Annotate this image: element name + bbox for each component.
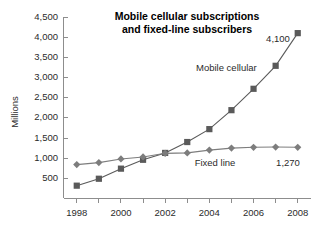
data-point-marker-square	[74, 183, 80, 189]
chart-canvas: Mobile cellular subscriptions and fixed-…	[0, 0, 326, 237]
y-axis-tick-label: 1,500	[34, 132, 58, 143]
data-point-marker-square	[206, 126, 212, 132]
y-axis-ticks: 5001,0001,5002,0002,5003,0003,5004,0004,…	[34, 11, 68, 183]
data-point-marker-square	[273, 63, 279, 69]
y-axis-tick-label: 500	[42, 172, 58, 183]
data-point-marker-square	[96, 176, 102, 182]
chart-title-line-2: and fixed-line subscribers	[122, 23, 252, 35]
y-axis-title: Millions	[9, 96, 20, 128]
y-axis: 5001,0001,5002,0002,5003,0003,5004,0004,…	[9, 11, 68, 198]
y-axis-tick-label: 2,500	[34, 91, 58, 102]
y-axis-tick-label: 4,500	[34, 11, 58, 22]
x-axis-ticks	[77, 199, 298, 204]
data-point-marker-square	[118, 166, 124, 172]
y-axis-tick-label: 1,000	[34, 152, 58, 163]
data-point-marker-square	[228, 107, 234, 113]
chart-title-group: Mobile cellular subscriptions and fixed-…	[115, 10, 260, 35]
x-axis-tick-label: 2000	[110, 207, 131, 218]
x-axis-tick-labels: 199820002002200420062008	[66, 207, 308, 218]
data-point-marker-diamond	[250, 144, 257, 151]
x-axis-tick-label: 1998	[66, 207, 87, 218]
chart-container: Mobile cellular subscriptions and fixed-…	[0, 0, 326, 237]
data-point-marker-square	[295, 30, 301, 36]
data-point-marker-diamond	[117, 155, 124, 162]
y-axis-tick-label: 2,000	[34, 111, 58, 122]
series-fixed-line	[73, 143, 301, 168]
x-axis: 199820002002200420062008	[64, 199, 312, 219]
data-point-marker-diamond	[73, 161, 80, 168]
chart-title-line-1: Mobile cellular subscriptions	[115, 10, 260, 22]
series-label-fixed-line: Fixed line	[195, 157, 236, 168]
x-axis-tick-label: 2008	[287, 207, 308, 218]
data-point-marker-square	[250, 86, 256, 92]
plot-series-group	[73, 30, 301, 189]
value-label-fixed-line: 1,270	[276, 157, 300, 168]
x-axis-tick-label: 2006	[243, 207, 264, 218]
data-point-marker-diamond	[95, 159, 102, 166]
y-axis-tick-label: 4,000	[34, 31, 58, 42]
y-axis-tick-label: 3,500	[34, 51, 58, 62]
y-axis-tick-label: 3,000	[34, 71, 58, 82]
x-axis-tick-label: 2004	[199, 207, 220, 218]
data-point-marker-diamond	[228, 144, 235, 151]
series-mobile-cellular	[74, 30, 301, 189]
data-point-marker-diamond	[294, 144, 301, 151]
data-point-marker-square	[184, 139, 190, 145]
data-point-marker-diamond	[272, 143, 279, 150]
value-label-mobile-cellular: 4,100	[266, 33, 290, 44]
series-label-mobile-cellular: Mobile cellular	[196, 62, 257, 73]
series-line	[77, 33, 298, 186]
data-point-marker-diamond	[206, 147, 213, 154]
data-point-marker-diamond	[184, 149, 191, 156]
x-axis-tick-label: 2002	[155, 207, 176, 218]
